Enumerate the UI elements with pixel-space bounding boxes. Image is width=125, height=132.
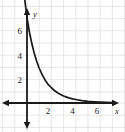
plot-background — [0, 0, 125, 132]
y-axis-label: y — [32, 9, 37, 19]
x-axis-label: x — [114, 106, 119, 116]
y-tick-label-4: 4 — [18, 51, 23, 61]
y-tick-label-2: 2 — [18, 75, 23, 85]
chart-figure: 6 4 2 2 4 6 y x — [0, 0, 125, 132]
y-tick-label-6: 6 — [18, 26, 23, 36]
x-tick-label-2: 2 — [46, 106, 51, 116]
exponential-decay-plot: 6 4 2 2 4 6 y x — [0, 0, 125, 132]
x-tick-label-6: 6 — [95, 106, 100, 116]
x-tick-label-4: 4 — [70, 106, 75, 116]
